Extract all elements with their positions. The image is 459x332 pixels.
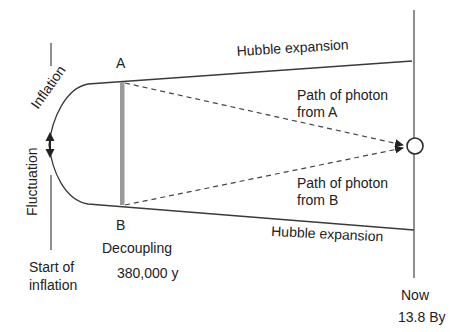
label-photon-a-line1: Path of photon: [297, 87, 388, 103]
label-photon-b-line2: from B: [297, 192, 338, 208]
label-point-b: B: [116, 217, 125, 233]
label-start-line2: inflation: [29, 277, 77, 293]
universe-top-boundary: [49, 61, 412, 145]
label-fluctuation: Fluctuation: [24, 148, 40, 216]
label-point-a: A: [116, 55, 126, 71]
label-decoupling: Decoupling: [102, 240, 172, 256]
observer-circle: [407, 138, 423, 154]
double-arrow-icon: [46, 132, 55, 158]
label-start-line1: Start of: [29, 259, 74, 275]
label-hubble-top: Hubble expansion: [236, 36, 349, 59]
cosmology-diagram: A B Hubble expansion Hubble expansion Pa…: [0, 0, 459, 332]
decoupling-bar: [120, 82, 125, 205]
label-now-time: 13.8 By: [398, 309, 445, 325]
label-now: Now: [401, 287, 430, 303]
label-photon-b-line1: Path of photon: [297, 175, 388, 191]
label-decoupling-time: 380,000 y: [117, 265, 179, 281]
label-photon-a-line2: from A: [297, 104, 338, 120]
